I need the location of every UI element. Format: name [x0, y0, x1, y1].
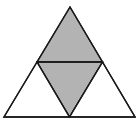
subdivided-triangle-diagram: [0, 0, 136, 126]
top-shaded-triangle: [37, 7, 103, 62]
